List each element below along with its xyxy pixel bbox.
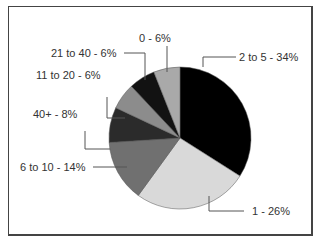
label-40plus: 40+ - 8% bbox=[33, 108, 78, 120]
label-21to40: 21 to 40 - 6% bbox=[51, 47, 117, 59]
leader-21to40 bbox=[124, 53, 145, 80]
leader-40plus bbox=[85, 131, 110, 149]
label-0: 0 - 6% bbox=[139, 32, 171, 44]
label-11to20: 11 to 20 - 6% bbox=[36, 69, 101, 81]
pie-chart: 2 to 5 - 34% 1 - 26% 6 to 10 - 14% 40+ -… bbox=[0, 0, 316, 241]
leader-2to5 bbox=[203, 57, 236, 67]
label-2to5: 2 to 5 - 34% bbox=[239, 51, 299, 63]
label-6to10: 6 to 10 - 14% bbox=[20, 161, 86, 173]
label-1: 1 - 26% bbox=[252, 205, 290, 217]
pie-slices bbox=[109, 67, 251, 209]
